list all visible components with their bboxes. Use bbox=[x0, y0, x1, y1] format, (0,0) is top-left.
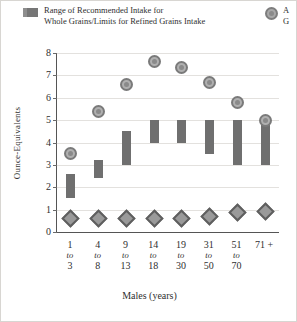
average-intake-marker bbox=[259, 114, 272, 127]
range-bar bbox=[177, 120, 186, 142]
average-intake-marker bbox=[92, 105, 105, 118]
plot-area: 012345678 bbox=[56, 53, 279, 233]
range-bar-swatch-icon bbox=[23, 8, 38, 17]
y-axis-title: Ounce-Equivalents bbox=[12, 107, 22, 179]
whole-grains-marker bbox=[62, 209, 80, 227]
y-tick-mark bbox=[53, 232, 57, 233]
range-bar bbox=[233, 120, 242, 165]
y-tick-mark bbox=[53, 210, 57, 211]
y-tick-mark bbox=[53, 53, 57, 54]
whole-grains-marker bbox=[117, 209, 135, 227]
whole-grains-marker bbox=[256, 203, 274, 221]
y-axis-title-wrapper: Ounce-Equivalents bbox=[19, 53, 20, 232]
y-tick-label: 8 bbox=[35, 48, 51, 58]
average-intake-marker bbox=[231, 96, 244, 109]
gridline bbox=[57, 75, 279, 76]
x-tick-age-start: 71 + bbox=[245, 239, 283, 250]
legend-item-average-intake: A G bbox=[265, 5, 289, 26]
x-tick-separator: to bbox=[217, 250, 255, 260]
x-tick-label-group: 71 + bbox=[245, 239, 283, 250]
gridline bbox=[57, 98, 279, 99]
x-axis-title: Males (years) bbox=[1, 290, 297, 301]
whole-grains-marker bbox=[89, 209, 107, 227]
y-tick-label: 7 bbox=[35, 70, 51, 80]
y-tick-label: 0 bbox=[35, 227, 51, 237]
gridline bbox=[57, 120, 279, 121]
range-bar bbox=[94, 160, 103, 178]
average-intake-marker bbox=[64, 147, 77, 160]
y-tick-mark bbox=[53, 165, 57, 166]
range-bar bbox=[150, 120, 159, 142]
legend-label-recommended-range: Range of Recommended Intake for Whole Gr… bbox=[44, 5, 205, 26]
gridline bbox=[57, 187, 279, 188]
y-tick-label: 5 bbox=[35, 115, 51, 125]
chart-legend: Range of Recommended Intake for Whole Gr… bbox=[1, 1, 297, 35]
legend-label-average-intake: A G bbox=[283, 5, 289, 26]
y-tick-mark bbox=[53, 143, 57, 144]
average-intake-marker bbox=[175, 61, 188, 74]
y-tick-label: 4 bbox=[35, 138, 51, 148]
x-tick-age-end: 70 bbox=[217, 260, 255, 271]
y-tick-label: 3 bbox=[35, 160, 51, 170]
chart-figure: Range of Recommended Intake for Whole Gr… bbox=[0, 0, 297, 322]
whole-grains-marker bbox=[145, 209, 163, 227]
range-bar bbox=[205, 120, 214, 154]
legend-item-recommended-range: Range of Recommended Intake for Whole Gr… bbox=[23, 5, 205, 26]
average-intake-marker bbox=[120, 78, 133, 91]
y-tick-label: 6 bbox=[35, 93, 51, 103]
y-tick-label: 2 bbox=[35, 182, 51, 192]
average-intake-marker bbox=[148, 55, 161, 68]
range-bar bbox=[66, 174, 75, 199]
y-tick-label: 1 bbox=[35, 205, 51, 215]
circle-marker-swatch-icon bbox=[265, 7, 278, 20]
range-bar bbox=[122, 131, 131, 165]
gridline bbox=[57, 53, 279, 54]
range-bar bbox=[261, 120, 270, 165]
average-intake-marker bbox=[203, 76, 216, 89]
whole-grains-marker bbox=[228, 204, 246, 222]
y-tick-mark bbox=[53, 187, 57, 188]
whole-grains-marker bbox=[173, 209, 191, 227]
gridline bbox=[57, 165, 279, 166]
y-tick-mark bbox=[53, 98, 57, 99]
gridline bbox=[57, 210, 279, 211]
gridline bbox=[57, 143, 279, 144]
y-tick-mark bbox=[53, 120, 57, 121]
y-tick-mark bbox=[53, 75, 57, 76]
